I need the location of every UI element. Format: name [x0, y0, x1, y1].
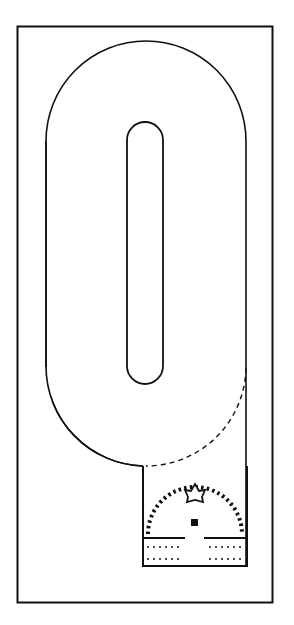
- track-diagram: [0, 0, 294, 625]
- track-inner-island: [127, 122, 163, 384]
- square-marker: [191, 519, 198, 526]
- grid-row-1: [147, 546, 241, 548]
- start-area: [143, 466, 247, 566]
- track-outer-boundary: [46, 41, 246, 566]
- track-dashed-connector: [146, 368, 246, 466]
- outer-frame: [18, 27, 273, 603]
- grid-row-2: [147, 558, 241, 560]
